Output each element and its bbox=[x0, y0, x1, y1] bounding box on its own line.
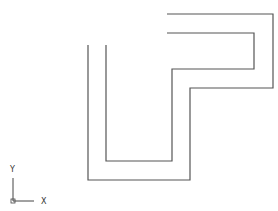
y-axis-label: Y bbox=[9, 165, 15, 174]
inner-path bbox=[106, 33, 254, 161]
ucs-axis-icon: Y X bbox=[9, 165, 47, 206]
x-axis-label: X bbox=[41, 197, 47, 206]
cad-drawing-canvas: Y X bbox=[0, 0, 278, 211]
outer-path bbox=[88, 14, 273, 180]
